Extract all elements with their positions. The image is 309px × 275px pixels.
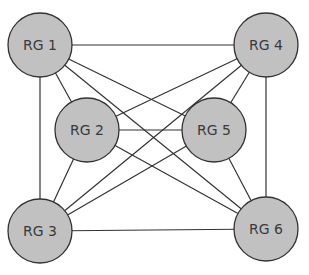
node-label: RG 6 — [249, 221, 283, 237]
node-label: RG 4 — [249, 37, 283, 53]
edge-rg3-rg6 — [40, 229, 266, 231]
node-label: RG 2 — [70, 122, 104, 138]
node-label: RG 5 — [197, 122, 231, 138]
node-rg6: RG 6 — [234, 197, 298, 261]
node-rg5: RG 5 — [182, 98, 246, 162]
node-rg1: RG 1 — [8, 13, 72, 77]
node-label: RG 3 — [23, 223, 57, 239]
node-label: RG 1 — [23, 37, 57, 53]
node-rg3: RG 3 — [8, 199, 72, 263]
node-rg2: RG 2 — [55, 98, 119, 162]
node-rg4: RG 4 — [234, 13, 298, 77]
network-diagram: RG 1RG 2RG 3RG 4RG 5RG 6 — [0, 0, 309, 275]
